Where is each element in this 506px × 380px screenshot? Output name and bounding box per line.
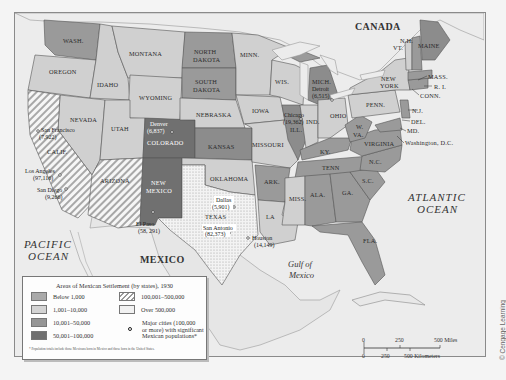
label-nebraska: NEBRASKA <box>196 111 232 118</box>
legend-swatch-1001-10000 <box>31 305 47 314</box>
label-pacific-2: OCEAN <box>28 250 69 262</box>
city-pop-los-angeles: (97,116) <box>33 175 53 182</box>
legend-swatch-50001-100000 <box>31 331 47 340</box>
label-nc: N.C. <box>369 158 382 165</box>
city-name-chicago: Chicago <box>284 112 304 118</box>
label-ga: GA. <box>342 189 353 196</box>
label-sc: S.C. <box>362 177 374 184</box>
city-pop-el-paso: (58, 291) <box>138 228 160 235</box>
city-name-dallas: Dallas <box>216 197 232 203</box>
label-wis: WIS. <box>275 78 289 85</box>
label-wva-2: VA. <box>353 131 364 138</box>
city-pop-san-antonio: (82,373) <box>205 231 226 238</box>
city-marker-denver <box>171 131 174 134</box>
legend-label: Mexican populations* <box>142 333 204 340</box>
label-ark: ARK. <box>264 178 280 185</box>
map-legend: Areas of Mexican Settlement (by states),… <box>22 276 207 360</box>
label-south-dakota-1: SOUTH <box>195 78 217 85</box>
credit-text: © Cengage Learning <box>499 300 506 360</box>
label-mich: MICH. <box>312 78 331 85</box>
scale-miles-0: 0 <box>362 337 365 343</box>
legend-swatch-dots <box>119 305 135 314</box>
label-texas: TEXAS <box>205 213 227 220</box>
label-pacific-1: PACIFIC <box>23 238 72 250</box>
label-ohio: OHIO <box>330 112 347 119</box>
label-iowa: IOWA <box>252 107 269 114</box>
label-ri: R. I. <box>434 83 446 90</box>
scale-km-0: 0 <box>362 353 365 359</box>
label-nevada: NEVADA <box>70 116 97 123</box>
label-new-york-1: NEW <box>381 75 396 82</box>
label-ind: IND. <box>306 118 320 125</box>
label-nh: N.H. <box>400 37 413 44</box>
city-name-denver: Denver <box>150 121 168 127</box>
scale-km-250: 250 <box>381 353 390 359</box>
label-minn: MINN. <box>240 51 260 58</box>
label-nj: N.J. <box>412 107 423 114</box>
label-north-dakota-1: NORTH <box>194 48 217 55</box>
legend-item-10001-50000: 10,001–50,000 <box>31 318 90 327</box>
label-del: DEL. <box>411 118 426 125</box>
label-conn: CONN. <box>420 92 441 99</box>
legend-swatch-below-1000 <box>31 292 47 301</box>
city-pop-san-francisco: (7,922) <box>39 134 57 141</box>
label-calif: CALIF. <box>47 148 68 155</box>
scale-miles-500: 500 Miles <box>434 337 458 343</box>
label-oregon: OREGON <box>49 68 77 75</box>
label-oklahoma: OKLAHOMA <box>210 175 249 182</box>
state-fla <box>312 222 385 285</box>
state-nj <box>400 100 410 118</box>
label-wyoming: WYOMING <box>139 94 172 101</box>
legend-label: Over 500,000 <box>141 306 175 313</box>
state-vt <box>405 40 412 70</box>
label-md: MD. <box>407 127 420 134</box>
city-pop-houston: (14,149) <box>254 242 275 249</box>
city-pop-san-diego: (9,266) <box>45 194 63 201</box>
city-name-san-diego: San Diego <box>37 187 62 193</box>
scale-km-500: 500 Kilometers <box>404 353 441 359</box>
label-mexico: MEXICO <box>140 254 185 265</box>
label-atlantic-2: OCEAN <box>417 203 458 215</box>
city-pop-chicago: (19,362) <box>283 119 304 126</box>
label-fla: FLA. <box>363 237 377 244</box>
label-colorado: COLORADO <box>147 139 184 146</box>
legend-label: 10,001–50,000 <box>53 319 90 326</box>
legend-label: 50,001–100,000 <box>53 332 93 339</box>
city-name-el-paso: El Paso <box>136 221 154 227</box>
label-tenn: TENN <box>322 164 340 171</box>
city-marker-houston <box>247 237 250 240</box>
city-name-houston: Houston <box>252 235 272 241</box>
label-idaho: IDAHO <box>97 81 119 88</box>
city-name-los-angeles: Los Angeles <box>25 168 55 174</box>
label-gulf-1: Gulf of <box>288 259 313 269</box>
label-atlantic-1: ATLANTIC <box>407 191 466 203</box>
label-new-mexico-1: NEW <box>151 179 166 186</box>
label-missouri: MISSOURI <box>252 141 284 148</box>
label-south-dakota-2: DAKOTA <box>193 86 221 93</box>
legend-title: Areas of Mexican Settlement (by states),… <box>23 282 206 289</box>
label-new-mexico-2: MEXICO <box>146 187 172 194</box>
legend-item-major-cities: Major cities (100,000 or more) with sign… <box>123 320 204 340</box>
label-ky: KY. <box>320 148 331 155</box>
label-penn: PENN. <box>366 101 385 108</box>
label-vt: VT. <box>393 44 403 51</box>
legend-item-below-1000: Below 1,000 <box>31 292 85 301</box>
state-md-del <box>375 118 402 132</box>
label-new-york-2: YORK <box>380 82 399 89</box>
city-marker-detroit <box>331 99 334 102</box>
label-miss: MISS. <box>289 195 306 202</box>
label-wash: WASH. <box>63 37 84 44</box>
legend-item-100001-500000: 100,001–500,000 <box>119 292 184 301</box>
city-marker-san-francisco <box>37 130 40 133</box>
label-la: LA <box>266 213 275 220</box>
legend-swatch-10001-50000 <box>31 318 47 327</box>
scale-miles-250: 250 <box>395 337 404 343</box>
label-washington-dc: Washington, D.C. <box>405 139 453 146</box>
legend-swatch-hatch <box>119 292 135 301</box>
city-marker-san-diego <box>65 188 68 191</box>
scale-bar: 0 250 500 Miles 0 250 500 Kilometers <box>362 337 458 359</box>
city-pop-denver: (6,837) <box>147 128 165 135</box>
label-utah: UTAH <box>111 125 129 132</box>
label-maine: MAINE <box>418 42 440 49</box>
